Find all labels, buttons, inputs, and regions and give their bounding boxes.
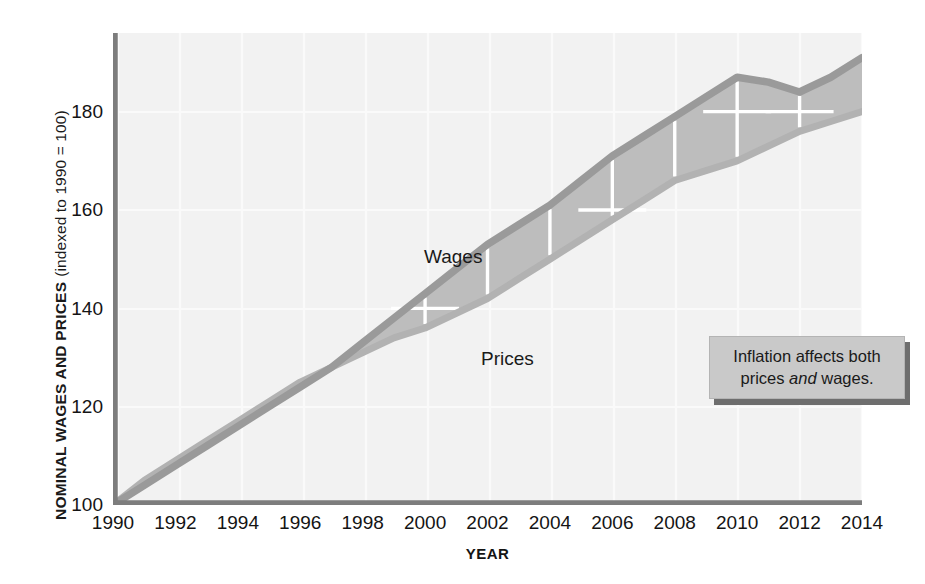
chart-figure: NOMINAL WAGES AND PRICES (indexed to 199… [0,0,925,584]
series-label-wages: Wages [424,246,482,268]
y-tick-label: 180 [13,101,113,123]
x-axis-title: YEAR [113,545,862,562]
chart-svg [113,33,862,505]
x-axis-tick-labels: 1990199219941996199820002002200420062008… [0,512,925,542]
y-axis-tick-labels: 180 160 140 120 100 [0,0,113,584]
callout-line-2-before: prices [740,369,789,387]
y-tick-label: 160 [13,199,113,221]
callout-line-1: Inflation affects both [733,347,880,365]
callout-box: Inflation affects both prices and wages. [709,336,905,399]
series-label-prices: Prices [481,348,534,370]
plot-area: Wages Prices Inflation affects both pric… [113,33,862,505]
callout-line-2-after: wages. [817,369,874,387]
callout-body: Inflation affects both prices and wages. [709,336,905,399]
callout-text: Inflation affects both prices and wages. [727,346,886,390]
y-tick-label: 140 [13,298,113,320]
y-tick-label: 120 [13,396,113,418]
callout-emphasis: and [789,369,817,387]
x-tick-label: 2014 [822,512,902,534]
